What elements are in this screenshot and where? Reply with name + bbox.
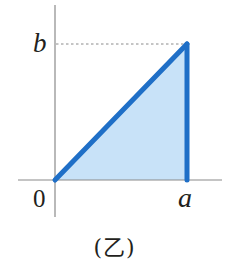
y-label-b: b	[33, 30, 47, 57]
triangle-region-diagram: b 0 a (乙)	[0, 0, 229, 275]
x-label-a: a	[178, 184, 192, 212]
origin-label: 0	[33, 186, 46, 211]
figure-caption: (乙)	[0, 237, 229, 259]
